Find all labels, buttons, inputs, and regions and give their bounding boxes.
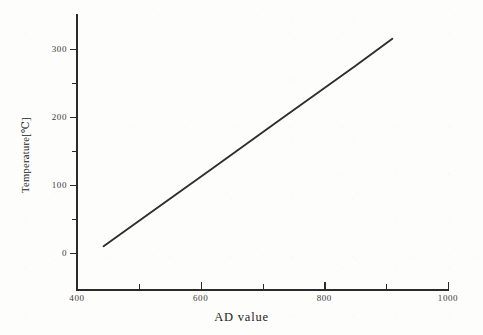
- chart-figure: Temperature[℃] 0100200300 4006008001000 …: [0, 0, 483, 335]
- data-series-line: [104, 39, 393, 246]
- x-axis-title: AD value: [0, 310, 483, 325]
- plot-canvas: [0, 0, 483, 335]
